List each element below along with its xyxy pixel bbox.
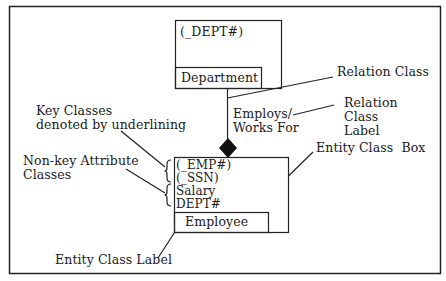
annotation-entity-class-box: Entity Class Box <box>316 141 426 156</box>
annotation-relation-class: Relation Class <box>337 65 429 80</box>
er-diagram-canvas: (_DEPT#) Department Employs/ Works For (… <box>0 0 446 281</box>
department-entity-label: Department <box>181 71 258 86</box>
annotation-entity-class-label: Entity Class Label <box>55 253 172 268</box>
nonkey-classes-pointer <box>126 169 165 193</box>
department-key-attribute: (_DEPT#) <box>180 25 243 40</box>
employee-entity-label: Employee <box>185 215 248 230</box>
employee-nonkey-attribute-dept: DEPT# <box>176 198 221 211</box>
annotation-key-classes-2: denoted by underlining <box>36 118 186 133</box>
relation-label-line2: Works For <box>233 121 299 136</box>
annotation-nonkey-2: Classes <box>23 168 71 183</box>
key-attributes-brace <box>165 160 172 182</box>
relation-class-label-pointer <box>293 105 334 115</box>
relation-diamond-icon <box>219 138 237 158</box>
entity-class-box-pointer <box>289 152 314 176</box>
annotation-relation-class-label-3: Label <box>344 124 380 139</box>
nonkey-attributes-brace <box>165 184 172 206</box>
